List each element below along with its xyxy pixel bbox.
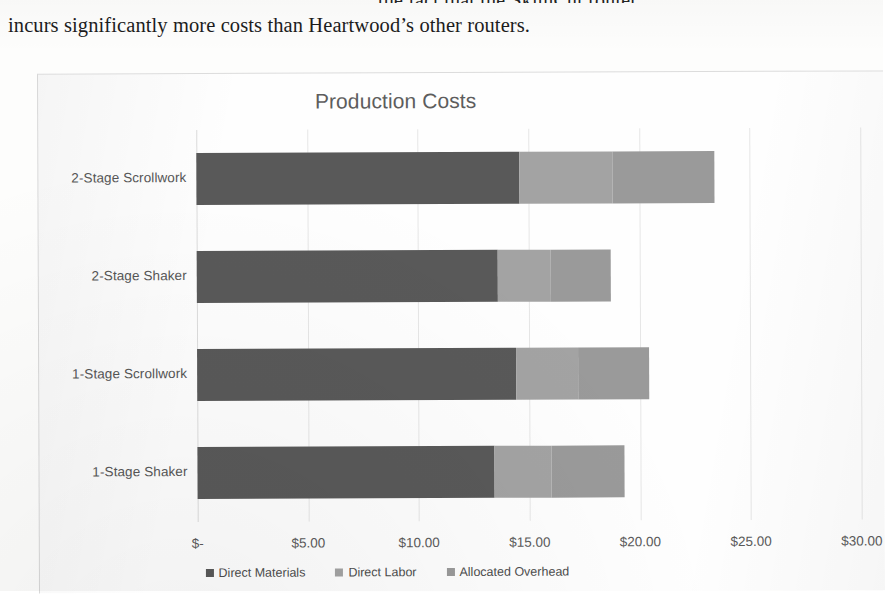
bar-segment-direct-labor [519, 151, 612, 203]
bar-segment-allocated-overhead [551, 249, 611, 301]
bar-segment-direct-materials [196, 152, 519, 205]
bar-segment-allocated-overhead [552, 445, 625, 497]
bar-row [197, 445, 624, 499]
tick-label: $- [192, 536, 204, 551]
value-axis: $-$5.00$10.00$15.00$20.00$25.00$30.00 [38, 71, 883, 74]
legend-label: Direct Labor [348, 565, 416, 579]
gridline [860, 127, 863, 519]
chart-legend: Direct MaterialsDirect LaborAllocated Ov… [40, 563, 885, 580]
bar-segment-direct-materials [197, 446, 494, 499]
legend-swatch-icon [446, 568, 454, 576]
legend-swatch-icon [335, 568, 343, 576]
bar-segment-allocated-overhead [612, 151, 714, 203]
bar-row [197, 249, 611, 303]
bar-segment-direct-labor [516, 348, 578, 400]
category-label: 1-Stage Shaker [92, 464, 187, 479]
category-label: 1-Stage Scrollwork [72, 366, 187, 381]
legend-item: Allocated Overhead [446, 565, 569, 579]
bar-segment-direct-materials [197, 348, 516, 401]
paragraph-line-2: incurs significantly more costs than Hea… [8, 14, 530, 37]
category-label: 2-Stage Scrollwork [71, 170, 186, 185]
legend-swatch-icon [206, 569, 214, 577]
tick-label: $5.00 [292, 536, 326, 551]
production-costs-chart: Production Costs 1-Stage Shaker1-Stage S… [37, 70, 885, 593]
plot-area [196, 127, 862, 522]
bar-segment-allocated-overhead [578, 347, 649, 399]
legend-item: Direct Labor [335, 565, 416, 579]
legend-item: Direct Materials [206, 566, 306, 580]
tick-label: $20.00 [620, 534, 661, 549]
bar-segment-direct-labor [494, 446, 552, 498]
tick-label: $25.00 [730, 534, 771, 549]
bar-row [196, 151, 714, 205]
bar-segment-direct-labor [498, 250, 551, 302]
tick-label: $15.00 [509, 535, 550, 550]
tick-label: $30.00 [841, 533, 882, 548]
category-label: 2-Stage Shaker [92, 268, 187, 283]
legend-label: Allocated Overhead [459, 565, 569, 579]
gridline [750, 128, 753, 520]
category-axis: 1-Stage Shaker1-Stage Scrollwork2-Stage … [38, 71, 883, 74]
bar-segment-direct-materials [197, 250, 498, 303]
paragraph-line-clipped: the fact that the SkimCut router [378, 0, 637, 3]
tick-label: $10.00 [398, 535, 439, 550]
legend-label: Direct Materials [219, 566, 306, 580]
bar-row [197, 347, 649, 401]
chart-title: Production Costs [38, 87, 883, 114]
